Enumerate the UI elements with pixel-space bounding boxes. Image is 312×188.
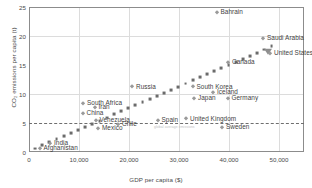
y-tick-label: 0 [10,149,26,156]
plot-area: global average emissions BahrainSaudi Ar… [29,7,304,152]
trend-line-marker [170,88,173,91]
x-axis-title: GDP per capita ($) [0,176,312,183]
trend-line-marker [220,67,223,70]
x-tick-label: 40,000 [209,156,249,163]
data-point-label: Germany [232,94,259,101]
trend-line-marker [249,54,252,57]
y-tick-label: 5 [10,120,26,127]
data-point-label: Mexico [102,124,123,131]
reference-line-annotation: global average emissions [154,125,195,129]
data-point-marker [156,118,160,122]
trend-line-marker [141,101,144,104]
data-point-label: Bahrain [221,8,243,15]
data-point-label: Spain [162,116,179,123]
data-point-label: United States [274,49,312,56]
plot-border [29,7,304,152]
data-point-label: Canada [232,58,255,65]
trend-line-marker [120,110,123,113]
data-point-label: Sweden [226,123,249,130]
trend-line-marker [62,135,65,138]
trend-line-marker [191,79,194,82]
trend-line-marker [77,129,80,132]
trend-line-marker [198,76,201,79]
data-point-label: United Kingdom [190,115,236,122]
data-point-marker [215,10,219,14]
data-point-label: Afghanistan [44,144,78,151]
data-point-label: Russia [136,83,156,90]
y-tick-label: 25 [10,4,26,11]
trend-line-marker [34,147,37,150]
trend-line-marker [163,91,166,94]
data-point-label: Saudi Arabia [267,34,304,41]
x-tick-label: 10,000 [59,156,99,163]
data-point-label: Japan [198,94,216,101]
trend-line-marker [206,73,209,76]
trend-line-marker [213,70,216,73]
trend-line-marker [127,107,130,110]
y-tick-label: 15 [10,62,26,69]
data-point-marker [93,105,97,109]
trend-line-marker [148,98,151,101]
trend-line-marker [155,94,158,97]
co2-vs-gdp-scatter-chart: CO₂ emissions per capita (t) GDP per cap… [0,0,312,188]
data-point-label: Chile [122,120,137,127]
trend-line-marker [256,51,259,54]
x-tick-label: 0 [9,156,49,163]
trend-line-marker [84,125,87,128]
data-point-marker [94,118,98,122]
trend-line-marker [177,85,180,88]
trend-line-marker [91,122,94,125]
trend-line-marker [69,132,72,135]
y-tick-label: 10 [10,91,26,98]
x-tick-label: 50,000 [259,156,299,163]
trend-line-marker [270,45,273,48]
x-tick-label: 20,000 [109,156,149,163]
x-tick-label: 30,000 [159,156,199,163]
trend-line-marker [184,82,187,85]
y-tick-label: 20 [10,33,26,40]
trend-line-marker [134,104,137,107]
